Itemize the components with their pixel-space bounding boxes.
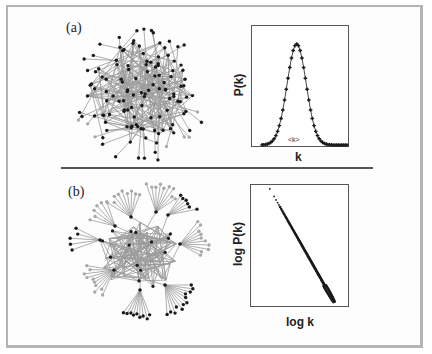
power-law-line: [0, 0, 432, 354]
ylabel-b: log P(k): [231, 216, 245, 272]
xlabel-b: log k: [286, 315, 314, 329]
